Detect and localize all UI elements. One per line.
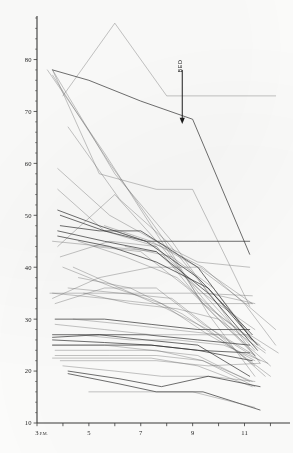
series-line — [53, 70, 250, 306]
bed-annotation-label: BED — [177, 59, 183, 72]
series-line — [79, 241, 266, 350]
series-line — [60, 361, 260, 366]
bed-arrow-head — [180, 118, 185, 124]
y-tick-label: 60 — [25, 160, 32, 167]
series-line — [55, 356, 255, 387]
series-line — [53, 345, 250, 381]
series-line — [60, 241, 255, 355]
series-line — [53, 358, 253, 387]
series-line — [53, 70, 250, 254]
series-line — [58, 231, 258, 350]
y-tick-label: 10 — [25, 419, 32, 426]
y-tick-label: 50 — [25, 212, 32, 219]
series-layer — [47, 23, 278, 410]
x-tick-label: 11 — [241, 429, 248, 436]
x-tick-label: 7 — [139, 429, 143, 436]
y-tick-label: 70 — [25, 108, 32, 115]
y-tick-label: 20 — [25, 367, 32, 374]
figure-container: 10203040506070803P.M.57911 BED — [0, 0, 293, 453]
series-line — [58, 195, 255, 356]
x-tick-label: 5 — [87, 429, 91, 436]
y-tick-label: 30 — [25, 316, 32, 323]
y-tick-label: 80 — [25, 56, 32, 63]
series-line — [58, 189, 255, 329]
line-chart-plot: 10203040506070803P.M.57911 BED — [0, 0, 293, 453]
series-line — [63, 366, 255, 382]
y-tick-label: 40 — [25, 264, 32, 271]
series-line — [89, 392, 255, 408]
x-tick-label-suffix: P.M. — [40, 431, 48, 436]
x-tick-label: 9 — [191, 429, 195, 436]
series-line — [63, 23, 276, 96]
series-line — [47, 70, 260, 345]
series-line — [58, 169, 250, 268]
series-line — [53, 241, 255, 350]
